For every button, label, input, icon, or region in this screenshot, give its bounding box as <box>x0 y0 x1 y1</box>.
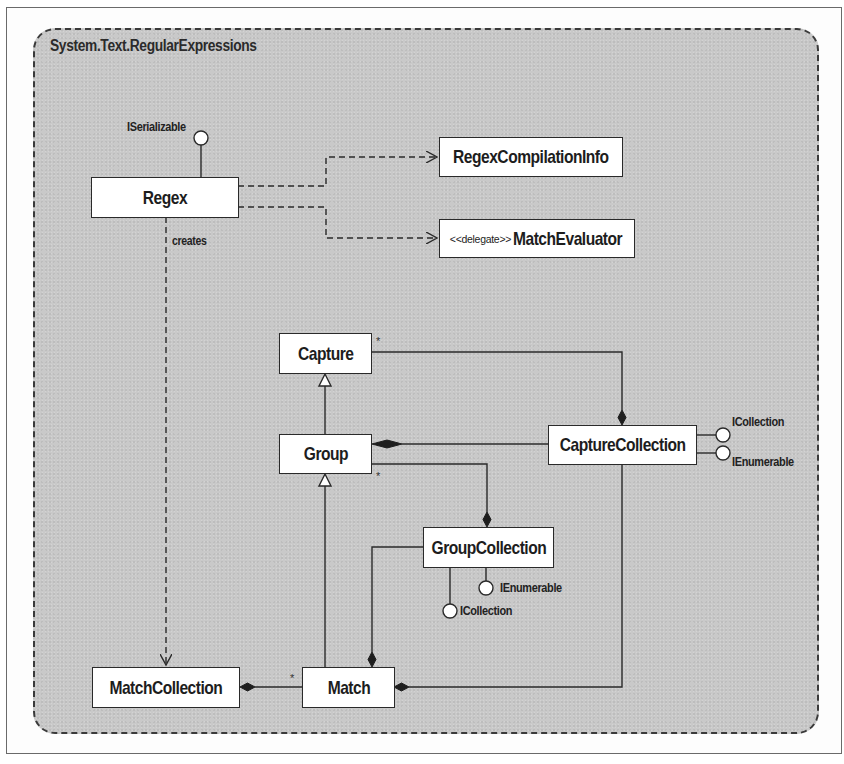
composition-diamond-capturecollection <box>618 410 626 425</box>
generalization-triangle-group <box>319 474 331 486</box>
class-group: Group <box>279 434 372 474</box>
dependency-matchevaluator <box>238 207 437 238</box>
class-matchcollection: MatchCollection <box>92 667 240 708</box>
composition-diamond-match-top <box>368 652 376 667</box>
class-name: MatchEvaluator <box>513 228 622 250</box>
class-capturecollection: CaptureCollection <box>548 425 697 465</box>
stereotype-label: <<delegate>> <box>450 233 511 245</box>
class-regexcompilationinfo: RegexCompilationInfo <box>439 137 623 177</box>
class-regex: Regex <box>91 177 239 218</box>
composition-diamond-group <box>372 440 402 448</box>
composition-diamond-groupcollection <box>483 512 491 527</box>
association-group-groupcollection <box>371 464 487 512</box>
class-name: GroupCollection <box>431 537 546 559</box>
class-name: Capture <box>298 343 353 365</box>
composition-diamond-matchcollection <box>240 683 255 691</box>
association-groupcollection-match <box>372 547 423 652</box>
class-name: MatchCollection <box>110 677 223 699</box>
iserializable-interface-icon <box>194 131 208 145</box>
ienumerable-interface-icon <box>716 446 730 460</box>
association-capture-capturecollection <box>371 352 622 410</box>
relationship-lines <box>0 0 844 764</box>
interface-label-icollection: ICollection <box>732 414 784 429</box>
interface-label-iserializable: ISerializable <box>127 119 186 134</box>
composition-diamond-match-right <box>394 683 409 691</box>
icollection-interface-icon <box>716 428 730 442</box>
class-matchevaluator: <<delegate>> MatchEvaluator <box>439 219 635 258</box>
class-match: Match <box>302 667 395 708</box>
association-capturecollection-match <box>409 465 622 687</box>
class-name: CaptureCollection <box>560 434 686 456</box>
class-name: Match <box>327 677 370 699</box>
interface-label-icollection: ICollection <box>460 603 512 618</box>
creates-label: creates <box>172 234 206 248</box>
class-name: RegexCompilationInfo <box>453 146 608 168</box>
class-groupcollection: GroupCollection <box>423 527 554 568</box>
class-name: Regex <box>143 187 187 209</box>
class-name: Group <box>303 443 347 465</box>
icollection-interface-icon <box>443 604 457 618</box>
ienumerable-interface-icon <box>479 581 493 595</box>
interface-label-ienumerable: IEnumerable <box>732 454 794 469</box>
dependency-regexcompilationinfo <box>238 157 437 186</box>
generalization-triangle-capture <box>319 374 331 386</box>
class-capture: Capture <box>279 333 372 374</box>
interface-label-ienumerable: IEnumerable <box>500 580 562 595</box>
multiplicity-group: * <box>376 470 380 482</box>
multiplicity-match: * <box>290 672 294 684</box>
multiplicity-capture: * <box>376 335 380 347</box>
